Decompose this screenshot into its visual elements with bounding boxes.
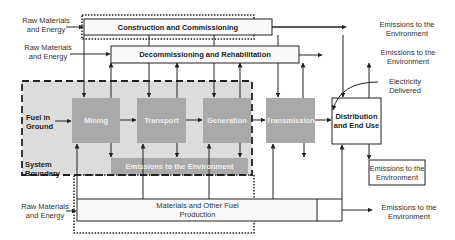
transmission-box: Transmission [264, 116, 317, 125]
electricity-delivered-label: Electricity Delivered [385, 77, 425, 95]
emissions-box-right: Emissions to the Environment [369, 164, 425, 182]
lifecycle-diagram: Raw Materials and Energy Raw Materials a… [0, 0, 455, 240]
distribution-box: Distribution and End Use [332, 112, 381, 130]
mining-box: Mining [72, 116, 120, 125]
emissions-output-2: Emissions to the Environment [373, 48, 443, 66]
raw-materials-label-2: Raw Materials and Energy [22, 43, 74, 61]
fuel-in-ground-label: Fuel in Ground [26, 113, 54, 131]
materials-box: Materials and Other Fuel Production [150, 201, 245, 219]
emissions-output-bottom: Emissions to the Environment [374, 203, 444, 221]
transport-box: Transport [137, 116, 186, 125]
decommissioning-box: Decommissioning and Rehabilitation [111, 50, 299, 59]
emissions-output-1: Emissions to the Environment [372, 20, 442, 38]
raw-materials-label-1: Raw Materials and Energy [20, 16, 72, 34]
construction-box: Construction and Commissioning [84, 23, 272, 32]
raw-materials-label-3: Raw Materials and Energy [18, 202, 72, 220]
generation-box: Generation [203, 116, 251, 125]
system-boundary-label: System Boundary [25, 160, 65, 178]
emissions-inner-box: Emissions to the Environment [111, 162, 248, 171]
